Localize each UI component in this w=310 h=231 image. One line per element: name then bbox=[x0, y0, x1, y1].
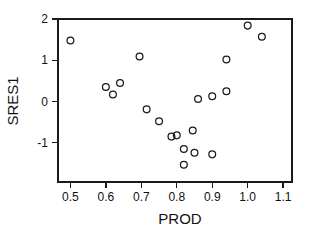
plot-border bbox=[58, 19, 292, 182]
y-axis-title: SRES1 bbox=[4, 76, 21, 125]
data-point-marker bbox=[67, 37, 74, 44]
data-point-marker bbox=[191, 149, 198, 156]
data-point-marker bbox=[209, 151, 216, 158]
y-tick-label: -1 bbox=[37, 136, 48, 150]
data-point-marker bbox=[189, 127, 196, 134]
x-tick-label: 0.8 bbox=[168, 190, 185, 204]
y-tick-label: 1 bbox=[41, 53, 48, 67]
data-point-marker bbox=[209, 93, 216, 100]
x-axis-title: PROD bbox=[158, 210, 202, 227]
data-point-marker bbox=[195, 96, 202, 103]
scatter-plot-figure: 0.50.60.70.80.91.01.1 210-1 PROD SRES1 bbox=[0, 0, 310, 231]
x-axis-ticks: 0.50.60.70.80.91.01.1 bbox=[62, 182, 292, 204]
data-point-marker bbox=[180, 146, 187, 153]
x-tick-label: 0.6 bbox=[98, 190, 115, 204]
data-point-marker bbox=[136, 53, 143, 60]
data-point-marker bbox=[117, 80, 124, 87]
data-point-marker bbox=[223, 88, 230, 95]
data-point-marker bbox=[156, 118, 163, 125]
x-tick-label: 0.5 bbox=[62, 190, 79, 204]
data-point-marker bbox=[223, 56, 230, 63]
data-point-marker bbox=[143, 106, 150, 113]
x-tick-label: 1.0 bbox=[239, 190, 256, 204]
y-tick-label: 0 bbox=[41, 95, 48, 109]
x-tick-label: 0.7 bbox=[133, 190, 150, 204]
data-point-marker bbox=[102, 84, 109, 91]
data-point-marker bbox=[180, 161, 187, 168]
data-point-marker bbox=[258, 33, 265, 40]
plot-canvas: 0.50.60.70.80.91.01.1 210-1 PROD SRES1 bbox=[0, 0, 310, 231]
data-point-marker bbox=[244, 22, 251, 29]
x-tick-label: 0.9 bbox=[204, 190, 221, 204]
y-tick-label: 2 bbox=[41, 12, 48, 26]
data-point-marker bbox=[110, 91, 117, 98]
x-tick-label: 1.1 bbox=[275, 190, 292, 204]
y-axis-ticks: 210-1 bbox=[37, 12, 58, 150]
axis-frame bbox=[58, 19, 292, 182]
data-points-group bbox=[67, 22, 265, 168]
